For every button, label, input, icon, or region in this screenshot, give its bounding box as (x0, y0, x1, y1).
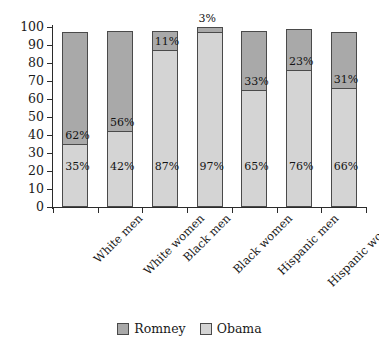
bar-segment-obama[interactable]: 65% (241, 90, 267, 207)
bar-6[interactable]: 23%76% (286, 27, 312, 207)
y-axis-tick-label: 80 (4, 57, 44, 69)
y-axis-tick-label: 30 (4, 147, 44, 159)
bar-segment-obama[interactable]: 87% (152, 50, 178, 207)
bar-segment-romney[interactable]: 56% (107, 31, 133, 132)
legend-swatch-icon (117, 323, 129, 335)
y-axis-tick-label: 40 (4, 129, 44, 141)
bar-value-label-romney: 56% (110, 117, 134, 128)
y-axis-tick-label: 100 (4, 21, 44, 33)
x-axis-line (52, 207, 366, 208)
bar-value-label-obama: 87% (155, 161, 179, 172)
bar-value-label-romney: 62% (65, 130, 89, 141)
bar-segment-romney[interactable]: 33% (241, 31, 267, 90)
x-axis-tick (366, 207, 367, 213)
x-axis-tick (98, 207, 99, 213)
chart-legend: RomneyObama (0, 322, 379, 335)
bar-value-label-romney: 11% (155, 36, 179, 47)
y-axis-tick-label: 20 (4, 165, 44, 177)
bar-value-label-romney: 23% (289, 56, 313, 67)
legend-swatch-icon (200, 323, 212, 335)
bar-value-label-obama: 35% (65, 161, 89, 172)
bar-5[interactable]: 33%65% (241, 27, 267, 207)
y-axis-tick-label: 0 (4, 201, 44, 213)
x-axis-tick (187, 207, 188, 213)
y-axis-tick-label: 60 (4, 93, 44, 105)
plot-area: 62%35%56%42%11%87%3%97%33%65%23%76%31%66… (53, 27, 366, 207)
bar-value-label-obama: 97% (200, 161, 224, 172)
bar-4[interactable]: 3%97% (197, 27, 223, 207)
bar-value-label-romney: 3% (199, 13, 216, 24)
bar-value-label-obama: 66% (334, 161, 358, 172)
y-axis-tick-label: 10 (4, 183, 44, 195)
bar-value-label-romney: 31% (334, 74, 358, 85)
bar-segment-romney[interactable]: 11% (152, 31, 178, 51)
bar-segment-obama[interactable]: 76% (286, 70, 312, 207)
bar-segment-obama[interactable]: 42% (107, 131, 133, 207)
bar-segment-obama[interactable]: 35% (62, 144, 88, 207)
legend-item-romney[interactable]: Romney (117, 322, 185, 335)
bar-segment-romney[interactable]: 62% (62, 32, 88, 144)
bar-segment-romney[interactable]: 23% (286, 29, 312, 70)
bar-7[interactable]: 31%66% (331, 27, 357, 207)
bar-value-label-romney: 33% (244, 76, 268, 87)
bar-segment-romney[interactable]: 31% (331, 32, 357, 88)
y-axis-tick-label: 70 (4, 75, 44, 87)
x-axis-category-label: White men (92, 212, 145, 265)
x-axis-tick (53, 207, 54, 213)
bar-value-label-obama: 76% (289, 161, 313, 172)
bar-value-label-obama: 42% (110, 161, 134, 172)
bar-3[interactable]: 11%87% (152, 27, 178, 207)
y-axis-tick-label: 90 (4, 39, 44, 51)
stacked-bar-chart: 0102030405060708090100 62%35%56%42%11%87… (0, 0, 379, 356)
legend-label: Romney (134, 322, 185, 335)
x-axis-tick (277, 207, 278, 213)
legend-label: Obama (217, 322, 262, 335)
y-axis-tick-label: 50 (4, 111, 44, 123)
bar-2[interactable]: 56%42% (107, 27, 133, 207)
x-axis-tick (232, 207, 233, 213)
bar-segment-obama[interactable]: 66% (331, 88, 357, 207)
bar-segment-obama[interactable]: 97% (197, 32, 223, 207)
bar-1[interactable]: 62%35% (62, 27, 88, 207)
legend-item-obama[interactable]: Obama (200, 322, 262, 335)
bar-value-label-obama: 65% (244, 161, 268, 172)
x-axis-tick (321, 207, 322, 213)
x-axis-tick (142, 207, 143, 213)
